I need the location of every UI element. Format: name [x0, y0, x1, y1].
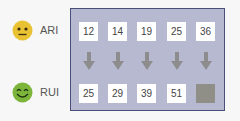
down-arrow-icon [200, 52, 212, 70]
ari-value-box: 12 [79, 22, 98, 41]
down-arrow-icon [83, 52, 95, 70]
rui-value-box: 51 [167, 84, 186, 103]
rui-value-box: 29 [108, 84, 127, 103]
rui-value-box: 25 [79, 84, 98, 103]
ari-value-box: 14 [108, 22, 127, 41]
ari-value-box: 36 [196, 22, 215, 41]
down-arrow-icon [112, 52, 124, 70]
smiling-face-icon [12, 82, 33, 103]
ari-value-box: 25 [167, 22, 186, 41]
neutral-face-icon [12, 20, 33, 41]
ari-value-box: 19 [137, 22, 156, 41]
down-arrow-icon [171, 52, 183, 70]
row-label-ari: ARI [40, 24, 58, 36]
sequence-panel: 12 14 19 25 36 25 29 39 51 [70, 8, 225, 111]
down-arrow-icon [141, 52, 153, 70]
rui-unknown-value-box [196, 84, 215, 103]
row-label-rui: RUI [40, 86, 59, 98]
rui-value-box: 39 [137, 84, 156, 103]
